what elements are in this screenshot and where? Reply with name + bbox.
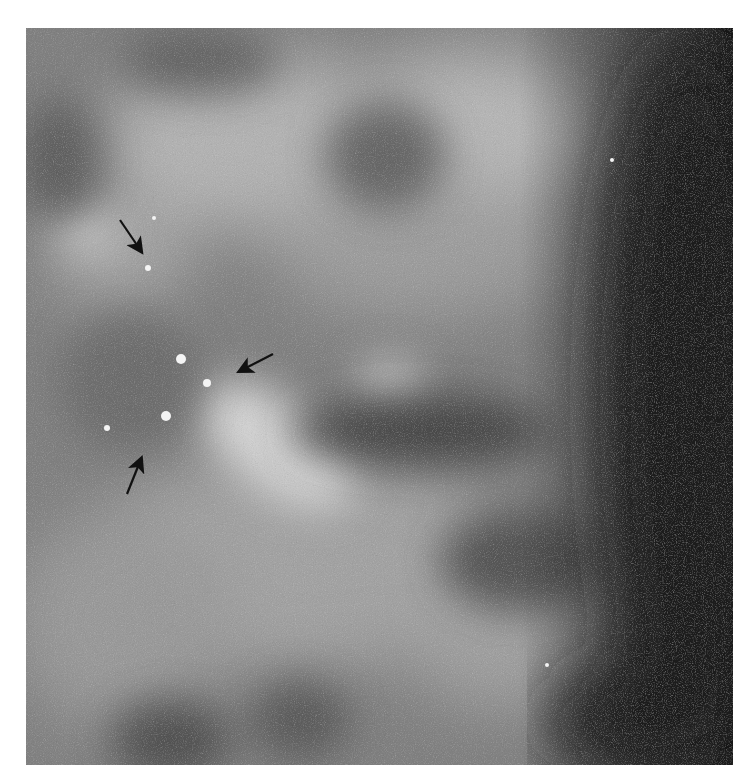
tissue-texture bbox=[26, 28, 733, 765]
mammogram-image bbox=[26, 28, 733, 765]
